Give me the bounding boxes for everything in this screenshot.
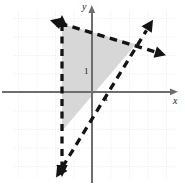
y-axis-label: y [82,2,86,12]
x-axis-tick-label-one: 1 [104,94,109,103]
boundary-lines [0,0,185,185]
vertical-boundary-line [56,15,67,177]
x-axis-label: x [173,96,177,106]
coordinate-plane-figure: y x 1 1 [0,0,185,185]
y-axis-tick-label-one: 1 [84,67,89,76]
